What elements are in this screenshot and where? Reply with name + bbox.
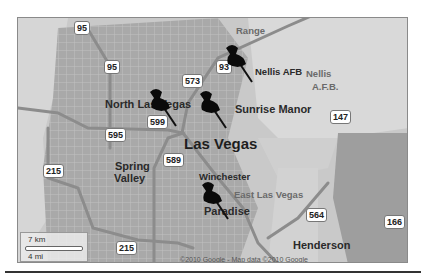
route-shield: 589	[163, 153, 184, 167]
place-label: Las Vegas	[184, 136, 257, 151]
place-label: Nellis AFB	[255, 67, 302, 77]
scale-bar-line	[25, 246, 83, 251]
place-label: Valley	[114, 173, 145, 184]
place-label: Nellis	[306, 69, 331, 79]
pin-nellis-pushpin-icon[interactable]	[222, 44, 256, 84]
place-label: Spring	[115, 161, 150, 172]
place-label: Range	[236, 26, 265, 36]
route-shield: 95	[104, 60, 120, 74]
pin-paradise-pushpin-icon[interactable]	[198, 181, 232, 221]
route-shield: 147	[330, 110, 351, 124]
map-copyright: ©2010 Google - Map data ©2010 Google	[180, 256, 308, 263]
route-shield: 595	[105, 128, 126, 142]
route-shield: 215	[43, 164, 64, 178]
place-label: East Las Vegas	[234, 190, 303, 200]
scale-km-label: 7 km	[28, 235, 45, 244]
divider-rule	[5, 271, 421, 273]
route-shield: 215	[116, 241, 137, 255]
place-label: A.F.B.	[312, 82, 338, 92]
route-shield: 573	[182, 74, 203, 88]
place-label: Sunrise Manor	[235, 104, 311, 115]
pin-north-las-vegas-pushpin-icon[interactable]	[146, 88, 180, 128]
route-shield: 564	[306, 208, 327, 222]
route-shield: 95	[74, 21, 90, 35]
scale-bar: 7 km 4 mi	[20, 232, 88, 262]
place-label: Arden	[118, 261, 145, 263]
pin-sunrise-manor-pushpin-icon[interactable]	[196, 90, 230, 130]
route-shield: 166	[384, 215, 405, 229]
place-label: Henderson	[293, 240, 350, 251]
map-view[interactable]: North Las VegasLas VegasSunrise ManorNel…	[17, 17, 408, 263]
scale-mi-label: 4 mi	[28, 252, 43, 261]
